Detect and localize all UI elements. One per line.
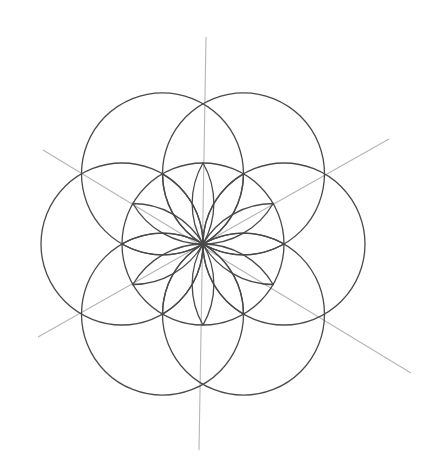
axis-line: [43, 150, 411, 373]
rosette-drawing: [0, 0, 438, 473]
petal: [203, 233, 284, 255]
petal: [122, 233, 203, 255]
rosette-svg: [0, 0, 438, 473]
construction-axes: [38, 37, 411, 450]
petal: [192, 244, 214, 325]
